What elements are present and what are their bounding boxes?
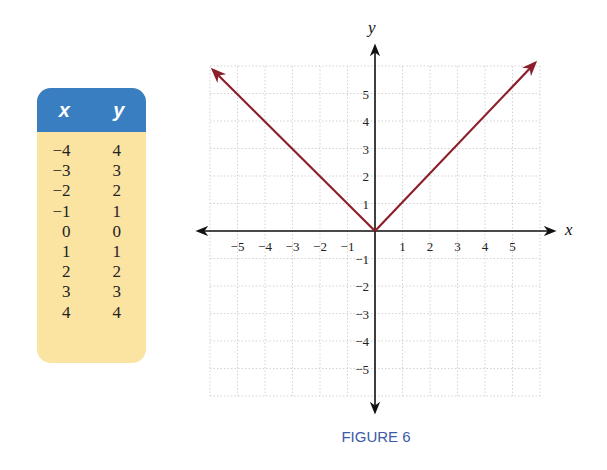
x-tick-label: 5 bbox=[509, 239, 516, 254]
x-tick-label: 2 bbox=[427, 239, 434, 254]
y-tick-label: −5 bbox=[355, 362, 369, 377]
x-tick-label: −1 bbox=[341, 239, 355, 254]
figure-caption: FIGURE 6 bbox=[336, 428, 416, 445]
y-axis-label: y bbox=[366, 18, 376, 37]
y-tick-label: −1 bbox=[355, 252, 369, 267]
y-tick-label: 3 bbox=[363, 142, 370, 157]
line-right-branch bbox=[375, 63, 535, 231]
coordinate-graph: −5−4−3−2−11234554321−1−2−3−4−5 x y bbox=[0, 0, 607, 470]
x-tick-label: −4 bbox=[258, 239, 272, 254]
y-tick-label: 2 bbox=[363, 169, 370, 184]
y-tick-label: 1 bbox=[363, 197, 370, 212]
x-tick-label: −3 bbox=[286, 239, 300, 254]
y-tick-label: −3 bbox=[355, 307, 369, 322]
y-tick-label: 5 bbox=[363, 87, 370, 102]
x-tick-label: −2 bbox=[313, 239, 327, 254]
y-tick-label: −4 bbox=[355, 334, 369, 349]
x-tick-label: 4 bbox=[482, 239, 489, 254]
x-tick-label: −5 bbox=[231, 239, 245, 254]
y-tick-label: −2 bbox=[355, 279, 369, 294]
x-axis-label: x bbox=[564, 220, 573, 239]
x-tick-label: 3 bbox=[454, 239, 461, 254]
x-tick-label: 1 bbox=[399, 239, 406, 254]
y-tick-label: 4 bbox=[363, 114, 370, 129]
